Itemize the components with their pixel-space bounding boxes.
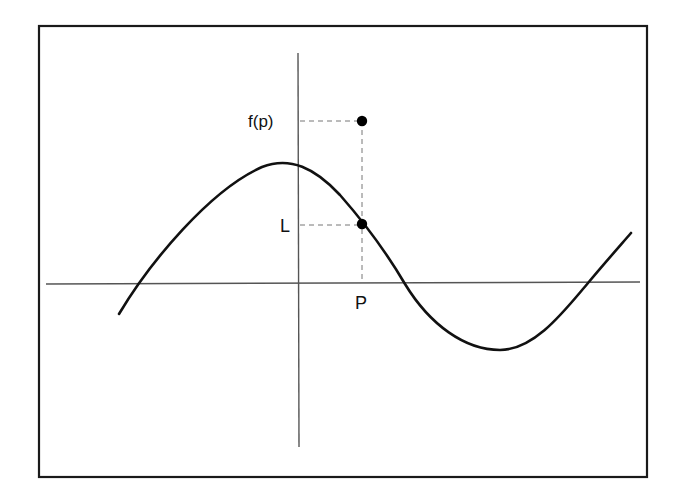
function-curve (119, 163, 631, 350)
y-axis (298, 53, 299, 447)
frame-border (39, 26, 647, 477)
limit-point (357, 219, 367, 229)
diagram-canvas: f(p) L P (0, 0, 676, 504)
fp-point (357, 116, 367, 126)
figure: f(p) L P (0, 0, 676, 504)
L-label: L (280, 216, 290, 236)
x-axis (46, 282, 640, 284)
fp-label: f(p) (248, 112, 274, 131)
P-label: P (355, 293, 367, 313)
